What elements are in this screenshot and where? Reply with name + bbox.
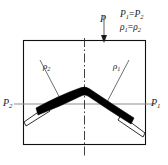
load-arrow-head: [101, 35, 107, 43]
pressure-label-left: P2: [3, 98, 13, 110]
density-label-left: ρ2: [43, 62, 50, 72]
figure-container: P P1=P2 ρ1=ρ2 P2 P1 ρ2 ρ1: [0, 0, 168, 165]
density-label-right-subscript: 1: [117, 66, 120, 72]
pressure-label-right: P1: [151, 98, 161, 110]
load-label: P: [100, 14, 106, 24]
diagram-canvas: [0, 0, 168, 165]
equation-density: ρ1=ρ2: [120, 23, 141, 33]
density-label-right: ρ1: [113, 62, 120, 72]
equation-pressure: P1=P2: [120, 10, 143, 20]
load-label-symbol: P: [100, 13, 106, 24]
equation-density-rhs-subscript: 2: [138, 26, 141, 33]
pressure-label-left-subscript: 2: [9, 102, 12, 109]
equation-pressure-rhs-subscript: 2: [140, 13, 143, 20]
pressure-label-right-subscript: 1: [157, 102, 160, 109]
density-label-left-subscript: 2: [47, 66, 50, 72]
